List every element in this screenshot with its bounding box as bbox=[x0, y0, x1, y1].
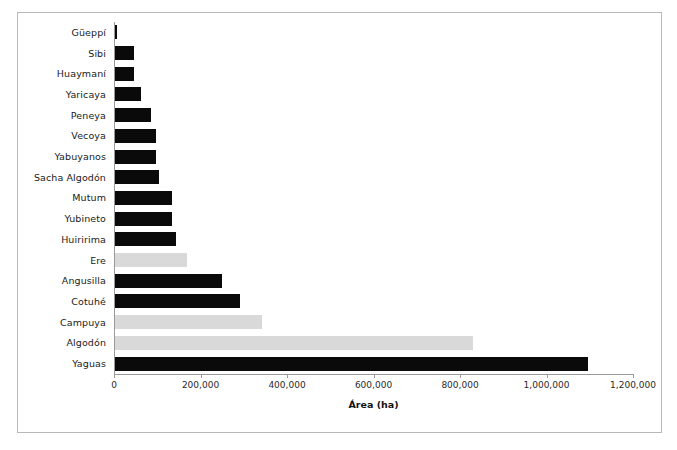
bar bbox=[115, 67, 134, 81]
category-label: Sacha Algodón bbox=[18, 167, 112, 188]
bar bbox=[115, 25, 117, 39]
x-tick-label: 1,000,000 bbox=[524, 380, 570, 390]
bar-row bbox=[115, 188, 634, 209]
category-label: Ere bbox=[18, 250, 112, 271]
bar-row bbox=[115, 63, 634, 84]
category-label: Campuya bbox=[18, 312, 112, 333]
bars-container bbox=[114, 22, 634, 374]
x-tick bbox=[547, 374, 548, 378]
bar-row bbox=[115, 208, 634, 229]
bar-row bbox=[115, 43, 634, 64]
bar bbox=[115, 253, 187, 267]
category-label: Peneya bbox=[18, 105, 112, 126]
x-tick-label: 600,000 bbox=[355, 380, 392, 390]
bar-row bbox=[115, 333, 634, 354]
bar-row bbox=[115, 84, 634, 105]
x-axis-title: Área (ha) bbox=[114, 399, 633, 410]
bar bbox=[115, 170, 159, 184]
bar bbox=[115, 46, 134, 60]
bar bbox=[115, 129, 156, 143]
bar-row bbox=[115, 250, 634, 271]
category-label: Angusilla bbox=[18, 270, 112, 291]
bar bbox=[115, 336, 473, 350]
x-tick-label: 200,000 bbox=[182, 380, 219, 390]
bar bbox=[115, 294, 240, 308]
bar-row bbox=[115, 146, 634, 167]
x-tick bbox=[460, 374, 461, 378]
category-label: Cotuhé bbox=[18, 291, 112, 312]
bar bbox=[115, 150, 156, 164]
category-label: Vecoya bbox=[18, 126, 112, 147]
x-tick-label: 400,000 bbox=[268, 380, 305, 390]
bar bbox=[115, 232, 176, 246]
x-tick-label: 1,200,000 bbox=[610, 380, 656, 390]
x-tick bbox=[287, 374, 288, 378]
bar-row bbox=[115, 105, 634, 126]
bar bbox=[115, 357, 588, 371]
bar-row bbox=[115, 353, 634, 374]
bar bbox=[115, 108, 151, 122]
category-label: Algodón bbox=[18, 333, 112, 354]
x-tick-label: 800,000 bbox=[441, 380, 478, 390]
category-label: Sibi bbox=[18, 43, 112, 64]
bar bbox=[115, 87, 141, 101]
bar-row bbox=[115, 167, 634, 188]
bar bbox=[115, 212, 172, 226]
bar-row bbox=[115, 291, 634, 312]
category-label: Huaymaní bbox=[18, 63, 112, 84]
x-tick bbox=[114, 374, 115, 378]
bar bbox=[115, 191, 172, 205]
category-label: Mutum bbox=[18, 188, 112, 209]
category-label: Huiririma bbox=[18, 229, 112, 250]
plot-area: GüeppíSibiHuaymaníYaricayaPeneyaVecoyaYa… bbox=[18, 13, 663, 434]
category-label: Güeppí bbox=[18, 22, 112, 43]
category-label: Yaguas bbox=[18, 353, 112, 374]
bar-row bbox=[115, 22, 634, 43]
bar bbox=[115, 315, 262, 329]
category-label: Yubineto bbox=[18, 208, 112, 229]
bar-row bbox=[115, 270, 634, 291]
bar-row bbox=[115, 312, 634, 333]
category-label: Yaricaya bbox=[18, 84, 112, 105]
chart-figure: GüeppíSibiHuaymaníYaricayaPeneyaVecoyaYa… bbox=[17, 12, 662, 433]
bar bbox=[115, 274, 222, 288]
x-tick bbox=[633, 374, 634, 378]
x-tick-label: 0 bbox=[111, 380, 117, 390]
x-tick bbox=[374, 374, 375, 378]
category-label: Yabuyanos bbox=[18, 146, 112, 167]
bar-row bbox=[115, 126, 634, 147]
category-axis-labels: GüeppíSibiHuaymaníYaricayaPeneyaVecoyaYa… bbox=[18, 22, 112, 374]
bar-row bbox=[115, 229, 634, 250]
x-tick bbox=[201, 374, 202, 378]
